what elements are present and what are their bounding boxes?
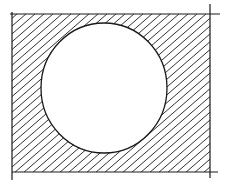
hatched-rectangle-with-circle [0, 0, 232, 184]
diagram-canvas: Hand-drawn sketch: rectangle with hatche… [0, 0, 232, 184]
hatch-fill [0, 0, 232, 184]
